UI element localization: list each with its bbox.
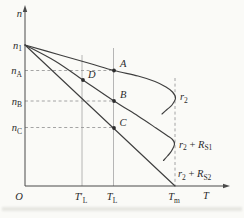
curve-r2-RS2-label: r2 + RS2 — [178, 168, 212, 182]
x-axis-label: T — [203, 190, 210, 201]
torque-speed-characteristics-figure: nn1nAnBnCOT′LTLTmTADBCr2r2 + RS1r2 + RS2 — [0, 0, 244, 218]
nA-tick-label: nA — [11, 65, 22, 79]
point-D-label: D — [87, 69, 96, 80]
nB-tick-label: nB — [12, 96, 22, 110]
point-dot-A — [112, 69, 116, 73]
Tm-tick-label: Tm — [168, 191, 180, 205]
curve-r2-label: r2 — [180, 91, 188, 105]
point-C-label: C — [120, 117, 128, 128]
TL-prime-tick-label: T′L — [75, 191, 88, 205]
curve-natural-characteristic — [25, 45, 176, 114]
curve-r2-RS1-label: r2 + RS1 — [179, 139, 213, 153]
y-axis-label: n — [17, 8, 22, 19]
point-dot-C — [112, 126, 116, 130]
point-dot-B — [112, 99, 116, 103]
torque-speed-diagram: nn1nAnBnCOT′LTLTmTADBCr2r2 + RS1r2 + RS2 — [0, 0, 244, 218]
origin-label: O — [15, 191, 23, 202]
scan-smudge — [2, 207, 242, 211]
nC-tick-label: nC — [12, 122, 22, 136]
point-dot-D — [81, 78, 85, 82]
n1-tick-label: n1 — [13, 40, 22, 54]
TL-tick-label: TL — [107, 191, 118, 205]
point-A-label: A — [119, 58, 127, 69]
point-B-label: B — [120, 89, 127, 100]
curve-characteristic-with-RS1 — [25, 45, 175, 161]
x-axis-arrow-icon — [223, 184, 230, 188]
y-axis-arrow-icon — [23, 5, 27, 12]
